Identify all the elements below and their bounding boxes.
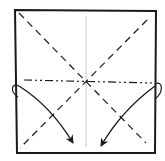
origami-diagram [0, 0, 165, 161]
